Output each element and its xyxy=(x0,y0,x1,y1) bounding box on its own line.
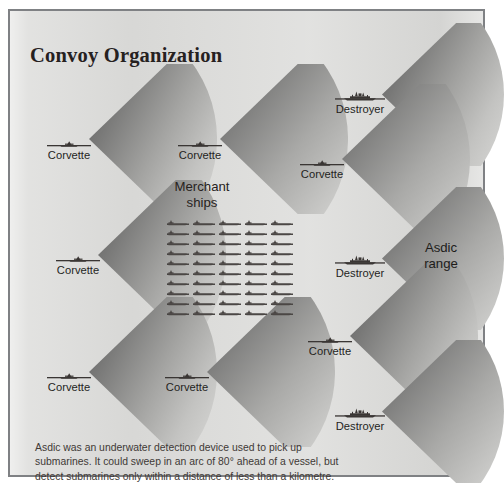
ship-label-corvette-bottom-center: Corvette xyxy=(155,381,219,394)
corvette-icon xyxy=(299,158,345,167)
asdic-range-label: Asdic range xyxy=(406,240,476,272)
merchant-ship-row xyxy=(167,253,297,263)
asdic-range-cone xyxy=(350,261,478,411)
ship-label-destroyer-top-right: Destroyer xyxy=(328,103,392,116)
merchant-label-line1: Merchant xyxy=(175,179,230,194)
ship-label-corvette-mid-left: Corvette xyxy=(46,264,110,277)
merchant-ship-row xyxy=(167,263,297,273)
ship-label-corvette-top-left: Corvette xyxy=(37,149,101,162)
caption-line-2: submarines. It could sweep in an arc of … xyxy=(35,455,455,469)
ship-marker-corvette-mid-right[interactable]: Corvette xyxy=(290,158,354,181)
merchant-ship-row xyxy=(167,213,297,223)
merchant-ships-label: Merchant ships xyxy=(156,179,248,210)
corvette-icon xyxy=(46,371,92,380)
corvette-icon xyxy=(46,139,92,148)
corvette-icon xyxy=(55,254,101,263)
merchant-ship-row xyxy=(167,273,297,283)
asdic-range-line2: range xyxy=(424,256,458,271)
ship-marker-corvette-top-left[interactable]: Corvette xyxy=(37,139,101,162)
merchant-ship[interactable] xyxy=(193,303,215,321)
ship-marker-corvette-mid-left[interactable]: Corvette xyxy=(46,254,110,277)
ship-label-corvette-bottom-right: Corvette xyxy=(298,345,362,358)
merchant-ship[interactable] xyxy=(245,303,267,321)
merchant-ship-row xyxy=(167,283,297,293)
merchant-ship-row xyxy=(167,233,297,243)
merchant-ship-row xyxy=(167,243,297,253)
ship-label-destroyer-bottom-right: Destroyer xyxy=(328,420,392,433)
merchant-ship-icon xyxy=(271,308,293,317)
caption-line-3: detect submarines only within a distance… xyxy=(35,470,455,484)
ship-marker-corvette-top-center[interactable]: Corvette xyxy=(168,139,232,162)
ship-label-corvette-mid-right: Corvette xyxy=(290,168,354,181)
ship-marker-destroyer-mid-right[interactable]: Destroyer xyxy=(328,254,392,280)
caption-text: Asdic was an underwater detection device… xyxy=(35,441,455,484)
merchant-ship-icon xyxy=(193,308,215,317)
merchant-label-line2: ships xyxy=(187,195,218,210)
ship-marker-destroyer-bottom-right[interactable]: Destroyer xyxy=(328,407,392,433)
merchant-ship-icon xyxy=(219,308,241,317)
merchant-ship[interactable] xyxy=(167,303,189,321)
asdic-range-cone xyxy=(382,23,504,166)
ship-label-corvette-top-center: Corvette xyxy=(168,149,232,162)
merchant-ships-grid xyxy=(167,213,297,313)
ship-marker-destroyer-top-right[interactable]: Destroyer xyxy=(328,90,392,116)
corvette-icon xyxy=(307,335,353,344)
merchant-ship-icon xyxy=(245,308,267,317)
merchant-ship-icon xyxy=(167,308,189,317)
diagram-panel: Convoy Organization CorvetteCorvetteDest… xyxy=(8,9,485,477)
asdic-range-line1: Asdic xyxy=(425,240,457,255)
merchant-ship-row xyxy=(167,293,297,303)
corvette-icon xyxy=(177,139,223,148)
page-title: Convoy Organization xyxy=(30,44,222,67)
ship-label-destroyer-mid-right: Destroyer xyxy=(328,267,392,280)
destroyer-icon xyxy=(334,407,386,419)
merchant-ship-row xyxy=(167,223,297,233)
merchant-ship[interactable] xyxy=(271,303,293,321)
caption-line-1: Asdic was an underwater detection device… xyxy=(35,441,455,455)
corvette-icon xyxy=(164,371,210,380)
ship-marker-corvette-bottom-center[interactable]: Corvette xyxy=(155,371,219,394)
ship-label-corvette-bottom-left: Corvette xyxy=(37,381,101,394)
merchant-ship[interactable] xyxy=(219,303,241,321)
destroyer-icon xyxy=(334,254,386,266)
destroyer-icon xyxy=(334,90,386,102)
ship-marker-corvette-bottom-right[interactable]: Corvette xyxy=(298,335,362,358)
merchant-ship-row xyxy=(167,303,297,313)
ship-marker-corvette-bottom-left[interactable]: Corvette xyxy=(37,371,101,394)
